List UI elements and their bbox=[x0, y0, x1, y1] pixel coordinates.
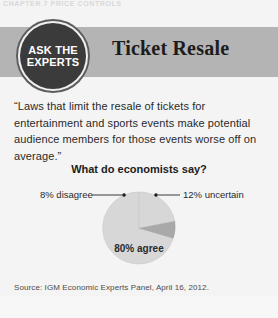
leader-dot-uncertain bbox=[154, 193, 158, 197]
chart-title: What do economists say? bbox=[0, 163, 278, 175]
page-cutoff-header: CHAPTER 7 PRICE CONTROLS bbox=[0, 0, 278, 7]
source-citation: Source: IGM Economic Experts Panel, Apri… bbox=[14, 283, 209, 292]
badge-disc: ASK THE EXPERTS bbox=[20, 23, 86, 89]
page-title: Ticket Resale bbox=[112, 37, 229, 60]
pie-label-agree: 80% agree bbox=[0, 243, 278, 254]
ask-the-experts-badge: ASK THE EXPERTS bbox=[16, 19, 90, 93]
bottom-spacer bbox=[0, 296, 278, 318]
pie-label-uncertain: 12% uncertain bbox=[183, 189, 244, 200]
expert-statement-quote: “Laws that limit the resale of tickets f… bbox=[14, 98, 266, 164]
pie-label-disagree: 8% disagree bbox=[40, 189, 93, 200]
badge-label-line2: EXPERTS bbox=[27, 56, 80, 68]
badge-label-line1: ASK THE bbox=[28, 44, 78, 56]
leader-dot-disagree bbox=[122, 193, 126, 197]
